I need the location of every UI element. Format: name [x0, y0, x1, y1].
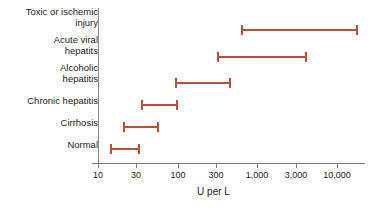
x-tick-label-10000: 10,000 [323, 170, 351, 180]
range-chart-figure: Toxic or ischemic injury Acute viral hep… [0, 0, 377, 211]
category-label-chronic-hepatitis: Chronic hepatitis [27, 95, 98, 106]
x-tick-10 [98, 164, 99, 168]
x-tick-label-100: 100 [170, 170, 185, 180]
range-bar-chronic-hepatitis [141, 104, 178, 106]
range-cap-low [241, 25, 243, 35]
x-tick-1000 [257, 164, 258, 168]
range-cap-high [305, 52, 307, 62]
range-cap-low [123, 122, 125, 132]
category-label-alcoholic-hepatitis: Alcoholic hepatitis [60, 62, 98, 84]
x-tick-3000 [296, 164, 297, 168]
range-cap-high [157, 122, 159, 132]
range-bar-cirrhosis [123, 126, 159, 128]
x-tick-label-3000: 3,000 [285, 170, 308, 180]
range-bar-acute-viral-hepatitis [217, 56, 307, 58]
range-cap-high [176, 100, 178, 110]
x-tick-300 [216, 164, 217, 168]
x-tick-label-1000: 1,000 [246, 170, 269, 180]
range-bar-alcoholic-hepatitis [175, 82, 231, 84]
category-label-toxic-or-ischemic-injury: Toxic or ischemic injury [26, 6, 98, 28]
range-cap-low [110, 144, 112, 154]
y-axis-line [98, 8, 99, 163]
range-bar-normal [110, 148, 140, 150]
x-tick-100 [178, 164, 179, 168]
range-bar-toxic-or-ischemic-injury [241, 29, 358, 31]
category-label-acute-viral-hepatitis: Acute viral hepatits [54, 34, 98, 56]
x-tick-30 [136, 164, 137, 168]
x-axis-title-text: U per L [147, 186, 230, 197]
range-cap-high [356, 25, 358, 35]
x-tick-label-300: 300 [208, 170, 223, 180]
x-axis-title: U per L [0, 186, 377, 197]
category-label-cirrhosis: Cirrhosis [61, 117, 98, 128]
range-cap-low [217, 52, 219, 62]
range-cap-low [175, 78, 177, 88]
x-tick-label-30: 30 [131, 170, 141, 180]
x-tick-label-10: 10 [93, 170, 103, 180]
range-cap-low [141, 100, 143, 110]
x-axis-line [92, 163, 365, 164]
x-tick-10000 [337, 164, 338, 168]
range-cap-high [229, 78, 231, 88]
category-label-normal: Normal [67, 139, 98, 150]
range-cap-high [138, 144, 140, 154]
